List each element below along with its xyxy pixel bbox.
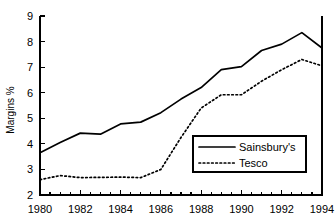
legend-label-tesco: Tesco [239,157,268,169]
y-tick-label: 5 [27,112,33,124]
chart-legend: Sainsbury'sTesco [193,136,306,172]
x-tick-label: 1982 [68,203,92,215]
x-tick-label: 1980 [28,203,52,215]
x-tick-label: 1992 [269,203,293,215]
x-tick-label: 1984 [108,203,132,215]
chart-container: Margins % 23456789 198019821984198619881… [0,0,336,223]
y-axis-tick-marks [40,16,45,195]
legend-label-sainsbury-s: Sainsbury's [239,141,296,153]
x-axis-tick-labels: 19801982198419861988199019921994 [28,203,334,215]
y-axis-tick-labels: 23456789 [27,10,33,201]
x-tick-label: 1994 [310,203,334,215]
margins-line-chart: Margins % 23456789 198019821984198619881… [0,0,336,223]
x-tick-label: 1990 [229,203,253,215]
x-axis-tick-marks [40,190,322,195]
y-tick-label: 4 [27,138,33,150]
y-axis-title-text: Margins % [5,86,16,133]
x-tick-label: 1988 [189,203,213,215]
x-tick-label: 1986 [149,203,173,215]
y-tick-label: 9 [27,10,33,22]
y-tick-label: 6 [27,87,33,99]
y-tick-label: 2 [27,189,33,201]
y-axis-title: Margins % [5,86,16,133]
series-line-sainsbury-s [40,33,322,153]
y-tick-label: 3 [27,163,33,175]
y-tick-label: 7 [27,61,33,73]
y-tick-label: 8 [27,36,33,48]
